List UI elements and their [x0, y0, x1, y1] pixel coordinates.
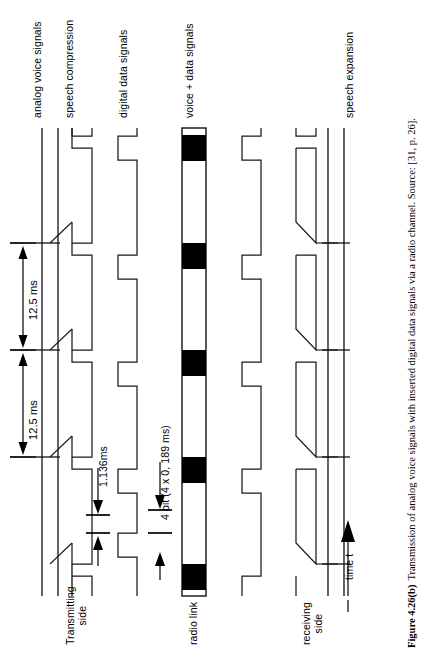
dimension-compression-gain [86, 468, 110, 566]
timing-diagram-canvas [0, 0, 425, 659]
trace-analog-voice-signals [36, 128, 72, 596]
trace-speech-expansion [296, 128, 338, 596]
trace-received-data-signals [242, 128, 261, 596]
trace-speech-compression [72, 128, 92, 596]
figure-root: analog voice signals speech compression … [0, 0, 425, 659]
time-axis-arrow [341, 520, 355, 612]
dimension-frame-period-lower [10, 350, 36, 457]
trace-digital-data-signals [118, 128, 137, 596]
trace-output-analog-voice [322, 128, 350, 596]
dimension-data-burst [148, 462, 172, 580]
dimension-frame-period-upper [10, 243, 36, 348]
trace-voice-plus-data-radio-link [182, 128, 206, 596]
